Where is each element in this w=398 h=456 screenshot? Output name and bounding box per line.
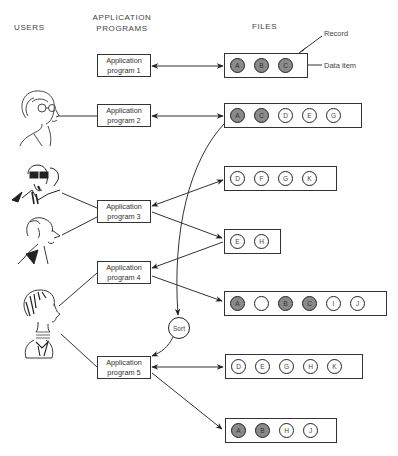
program-label-line2: program 4 xyxy=(98,273,150,283)
data-item xyxy=(254,296,269,311)
data-item: B xyxy=(254,58,269,73)
data-item: C xyxy=(278,58,293,73)
data-item: F xyxy=(254,171,269,186)
data-item: H xyxy=(279,423,294,438)
file-4: E H xyxy=(224,229,281,254)
data-item: E xyxy=(302,108,317,123)
user-woman-glasses-icon xyxy=(12,88,62,148)
program-label-line1: Application xyxy=(98,106,150,116)
data-item-annotation: Data item xyxy=(324,61,356,70)
data-item: A xyxy=(230,296,245,311)
data-item: B xyxy=(255,423,270,438)
data-item: H xyxy=(254,234,269,249)
program-label-line1: Application xyxy=(98,56,150,66)
program-label-line2: program 1 xyxy=(98,66,150,76)
data-item: K xyxy=(327,359,342,374)
application-program-2: Application program 2 xyxy=(97,104,151,127)
data-item: I xyxy=(326,296,341,311)
data-item: K xyxy=(302,171,317,186)
data-item: B xyxy=(278,296,293,311)
user-woman-short-hair-icon xyxy=(16,286,64,360)
program-label-line2: program 2 xyxy=(98,116,150,126)
data-item: G xyxy=(326,108,341,123)
program-label-line2: program 5 xyxy=(98,368,150,378)
sort-node: Sort xyxy=(168,317,190,339)
file-6: D E G H K xyxy=(225,354,363,379)
program-label-line2: program 3 xyxy=(98,212,150,222)
data-item: J xyxy=(350,296,365,311)
file-5: A B C I J xyxy=(224,291,387,316)
data-item: A xyxy=(230,108,245,123)
record-annotation: Record xyxy=(324,29,348,38)
file-7: A B H J xyxy=(225,418,337,443)
data-item: C xyxy=(254,108,269,123)
data-item: A xyxy=(230,58,245,73)
application-program-4: Application program 4 xyxy=(97,261,151,284)
data-item: E xyxy=(255,359,270,374)
data-item: A xyxy=(231,423,246,438)
data-item: G xyxy=(279,359,294,374)
file-1: A B C xyxy=(224,53,308,78)
application-program-1: Application program 1 xyxy=(97,54,151,77)
data-item: J xyxy=(303,423,318,438)
user-man-profile-icon xyxy=(14,214,62,266)
data-item: D xyxy=(231,359,246,374)
data-item: D xyxy=(230,171,245,186)
data-item: D xyxy=(278,108,293,123)
data-item: C xyxy=(302,296,317,311)
user-man-phone-icon xyxy=(8,160,66,206)
program-label-line1: Application xyxy=(98,358,150,368)
file-3: D F G K xyxy=(224,166,337,191)
application-program-3: Application program 3 xyxy=(97,200,151,223)
program-label-line1: Application xyxy=(98,202,150,212)
application-program-5: Application program 5 xyxy=(97,356,151,379)
data-item: E xyxy=(230,234,245,249)
data-item: G xyxy=(278,171,293,186)
data-item: H xyxy=(303,359,318,374)
file-2: A C D E G xyxy=(224,103,362,128)
program-label-line1: Application xyxy=(98,263,150,273)
